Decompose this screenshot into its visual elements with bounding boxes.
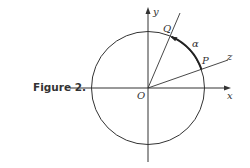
arc-arrow-icon	[171, 37, 178, 41]
point-p-label: P	[201, 55, 209, 66]
unit-circle-diagram: y x z O Q P α	[0, 0, 250, 168]
point-q-label: Q	[163, 23, 171, 34]
z-axis-label: z	[226, 51, 233, 62]
ray-oz	[148, 60, 228, 88]
y-axis-label: y	[152, 6, 159, 17]
arc-alpha-label: α	[192, 38, 199, 49]
origin-label: O	[137, 90, 145, 101]
y-axis-arrow-icon	[146, 7, 151, 14]
x-axis-label: x	[227, 90, 233, 101]
